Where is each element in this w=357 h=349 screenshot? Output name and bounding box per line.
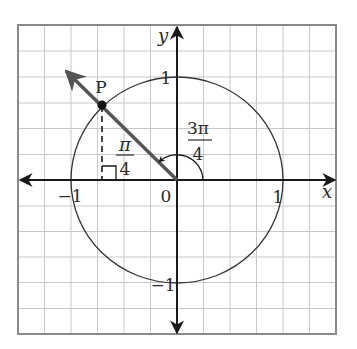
tick-label-y-1: 1 (161, 68, 172, 88)
rotation-angle-denominator: 4 (193, 144, 204, 164)
point-p-label: P (95, 77, 106, 97)
x-axis-label: x (322, 181, 332, 202)
reference-angle-label: π 4 (116, 134, 134, 179)
tick-label-x-1: 1 (273, 187, 284, 207)
y-axis-label: y (157, 25, 169, 46)
tick-label-y-neg1: −1 (150, 275, 175, 295)
point-p (98, 101, 107, 110)
reference-angle-numerator: π (118, 134, 132, 155)
reference-angle-denominator: 4 (120, 159, 131, 179)
right-angle-marker (102, 166, 116, 180)
origin-label: 0 (161, 186, 172, 206)
rotation-angle-numerator: 3π (187, 118, 209, 138)
unit-circle-diagram: P y x 1 −1 −1 1 0 π 4 3π 4 (0, 0, 357, 349)
rotation-angle-label: 3π 4 (187, 118, 212, 164)
tick-label-x-neg1: −1 (57, 186, 82, 206)
